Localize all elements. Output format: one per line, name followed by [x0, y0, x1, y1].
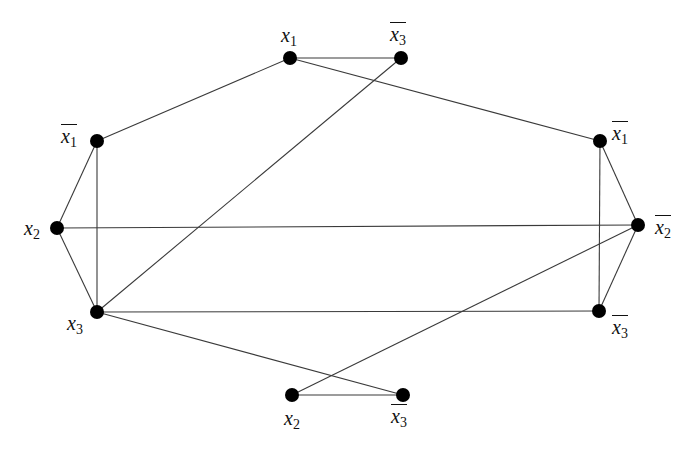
label-subscript: 3 — [76, 322, 83, 337]
label-variable: x — [61, 125, 70, 147]
node-label-bot_x3n: x3 — [391, 404, 407, 430]
node-label-left_x2: x2 — [24, 218, 40, 242]
node-right_x2n — [631, 218, 645, 232]
edge-right_x1n-right_x2n — [600, 141, 638, 225]
label-variable: x — [284, 407, 293, 429]
edge-right_x2n-bot_x2 — [292, 225, 638, 395]
edge-right_x2n-right_x3n — [599, 225, 638, 311]
label-variable: x — [612, 316, 621, 338]
label-subscript: 1 — [621, 132, 628, 147]
node-top_x1 — [283, 51, 297, 65]
label-subscript: 2 — [33, 227, 40, 242]
label-subscript: 1 — [290, 34, 297, 49]
node-label-top_x3n: x3 — [390, 22, 406, 48]
label-subscript: 2 — [293, 417, 300, 432]
label-variable: x — [655, 216, 664, 238]
edge-left_x3-right_x3n — [97, 311, 599, 312]
node-bot_x2 — [285, 388, 299, 402]
node-left_x1n — [90, 134, 104, 148]
edge-left_x3-bot_x3n — [97, 312, 403, 395]
edge-right_x1n-right_x3n — [599, 141, 600, 311]
label-subscript: 1 — [70, 135, 77, 150]
label-variable: x — [67, 312, 76, 334]
node-label-right_x2n: x2 — [655, 215, 671, 241]
node-left_x3 — [90, 305, 104, 319]
node-right_x1n — [593, 134, 607, 148]
label-subscript: 3 — [400, 415, 407, 430]
label-subscript: 2 — [664, 226, 671, 241]
edge-left_x2-right_x2n — [57, 225, 638, 228]
edges-group — [57, 58, 638, 395]
node-label-left_x3: x3 — [67, 313, 83, 337]
label-variable: x — [390, 23, 399, 45]
label-subscript: 3 — [621, 326, 628, 341]
node-label-left_x1n: x1 — [61, 124, 77, 150]
graph-canvas — [0, 0, 698, 452]
node-label-top_x1: x1 — [281, 25, 297, 49]
label-variable: x — [24, 217, 33, 239]
node-right_x3n — [592, 304, 606, 318]
edge-left_x1n-left_x2 — [57, 141, 97, 228]
label-variable: x — [281, 24, 290, 46]
edge-left_x2-left_x3 — [57, 228, 97, 312]
label-variable: x — [391, 405, 400, 427]
edge-top_x1-right_x1n — [290, 58, 600, 141]
node-bot_x3n — [396, 388, 410, 402]
label-variable: x — [612, 122, 621, 144]
node-label-right_x1n: x1 — [612, 121, 628, 147]
edge-top_x3n-left_x3 — [97, 58, 401, 312]
label-subscript: 3 — [399, 33, 406, 48]
node-label-right_x3n: x3 — [612, 315, 628, 341]
node-top_x3n — [394, 51, 408, 65]
node-label-bot_x2: x2 — [284, 408, 300, 432]
node-left_x2 — [50, 221, 64, 235]
edge-top_x1-left_x1n — [97, 58, 290, 141]
